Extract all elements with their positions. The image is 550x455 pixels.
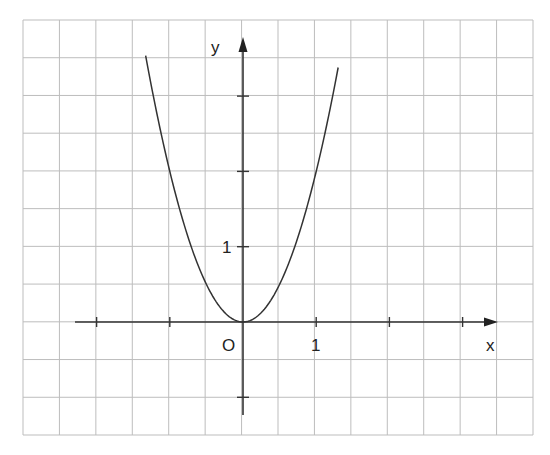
axes bbox=[75, 37, 498, 415]
grid bbox=[23, 20, 533, 435]
x-tick-label-1: 1 bbox=[311, 336, 320, 355]
parabola-chart: y x O 1 1 bbox=[0, 0, 550, 455]
y-axis-label: y bbox=[211, 38, 220, 57]
origin-label: O bbox=[222, 336, 235, 355]
y-axis-arrow-icon bbox=[239, 37, 248, 52]
x-axis-label: x bbox=[486, 336, 495, 355]
y-tick-label-1: 1 bbox=[222, 238, 231, 257]
x-axis-arrow-icon bbox=[484, 318, 498, 327]
